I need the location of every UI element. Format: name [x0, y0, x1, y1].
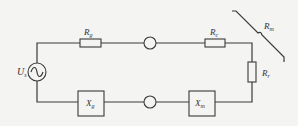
resistor-rr-label: Rr: [261, 68, 271, 79]
resistor-rg-label: Rg: [83, 27, 93, 38]
ground-resistance-label: Rm: [263, 21, 275, 32]
circuit-diagram: Us Rg Rc Rr Xg Xm Rm: [0, 0, 298, 126]
resistor-rr: [248, 62, 256, 82]
resistor-rg: [80, 39, 101, 47]
terminal-bottom: [144, 96, 156, 108]
voltage-source: [28, 63, 46, 81]
wire-top-right: [225, 43, 252, 62]
resistor-rc: [205, 39, 225, 47]
wire-bottom-left: [37, 81, 78, 102]
resistor-rc-label: Rc: [209, 27, 219, 38]
terminal-top: [144, 37, 156, 49]
wire-right-lower: [215, 82, 252, 102]
source-label: Us: [17, 66, 27, 78]
ground-line: [232, 11, 284, 62]
wire-left: [37, 43, 80, 63]
